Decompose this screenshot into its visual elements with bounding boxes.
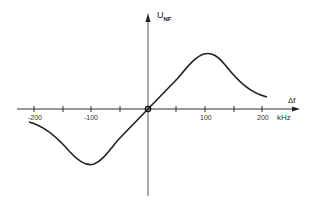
x-axis-arrow-icon (292, 107, 300, 112)
y-axis-title: UNF (157, 10, 172, 22)
discriminator-chart (0, 0, 318, 203)
x-axis-title: Δf (288, 96, 296, 105)
y-axis-subscript: NF (164, 16, 172, 22)
y-axis-arrow-icon (146, 13, 151, 22)
tick-label-m100: -100 (84, 114, 98, 121)
tick-label-200: 200 (257, 114, 269, 121)
x-unit-label: kHz (277, 113, 291, 122)
tick-label-m200: -200 (28, 114, 42, 121)
tick-label-100: 100 (200, 114, 212, 121)
